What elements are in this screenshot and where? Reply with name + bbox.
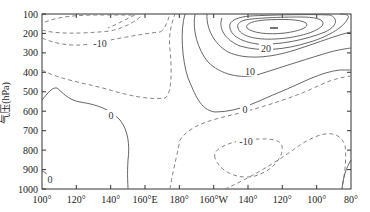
x-tick-label: 180°	[170, 194, 189, 205]
y-tick-label: 400	[23, 67, 38, 78]
contour-label: 0	[48, 174, 53, 185]
contour-label: 20	[261, 43, 271, 54]
contour-labels: -10 20 10 0 0 -10 0	[45, 38, 273, 185]
x-tick-label: 160°E	[132, 194, 157, 205]
x-tick-label: 80°	[344, 194, 358, 205]
y-axis-title: 气压(hPa)	[0, 82, 12, 124]
y-tick-label: 600	[23, 106, 38, 117]
y-tick-label: 200	[23, 28, 38, 39]
x-tick-label: 140°	[101, 194, 120, 205]
contour-lines	[42, 14, 351, 189]
contour-label: 0	[243, 104, 248, 115]
y-tick-label: 100	[23, 9, 38, 20]
x-tick-label: 120°	[67, 194, 86, 205]
x-tick-label: 100°	[33, 194, 52, 205]
contour-chart: 100 200 300 400 500 600 700 800 900 1000…	[0, 0, 370, 212]
y-tick-label: 900	[23, 164, 38, 175]
y-tick-label: 700	[23, 125, 38, 136]
contour-label: -10	[93, 38, 106, 49]
y-tick-label: 300	[23, 47, 38, 58]
contour-label: -10	[239, 136, 252, 147]
y-tick-label: 1000	[18, 184, 38, 195]
x-tick-label: 160°W	[199, 194, 228, 205]
y-tick-label: 800	[23, 145, 38, 156]
y-tick-label: 500	[23, 86, 38, 97]
contour-label: 0	[109, 110, 114, 121]
x-tick-label: 140°	[239, 194, 258, 205]
x-tick-label: 120°	[273, 194, 292, 205]
x-tick-label: 100°	[307, 194, 326, 205]
contour-label: 10	[245, 66, 255, 77]
